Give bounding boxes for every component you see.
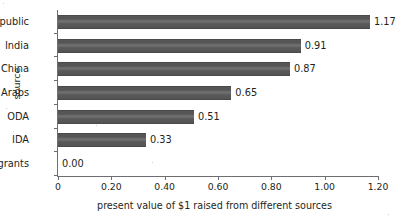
bar-value-label-ida: 0.33 <box>150 133 172 147</box>
x-axis-tick-label-0.80: 0.80 <box>251 181 291 192</box>
bar-oda[interactable] <box>58 110 194 124</box>
x-axis-tick <box>325 176 326 180</box>
scan-speck <box>6 108 7 109</box>
y-axis-tick-label-oda: ODA <box>0 110 29 124</box>
bar-arabs[interactable] <box>58 86 231 100</box>
chart-row: ODA0.51 <box>58 105 378 129</box>
scan-speck <box>388 214 389 215</box>
x-axis-tick <box>111 176 112 180</box>
y-axis-tick-label-india: India <box>0 39 29 53</box>
chart-row: India0.91 <box>58 34 378 58</box>
bar-china[interactable] <box>58 62 290 76</box>
bar-value-label-oda: 0.51 <box>198 110 220 124</box>
bar-india[interactable] <box>58 39 301 53</box>
chart-row: Arabs0.65 <box>58 81 378 105</box>
bar-ida[interactable] <box>58 133 146 147</box>
chart-row: grants0.00 <box>58 152 378 176</box>
bar-value-label-arabs: 0.65 <box>235 86 257 100</box>
x-axis-tick-label-0.60: 0.60 <box>198 181 238 192</box>
chart-row: China0.87 <box>58 57 378 81</box>
bar-chart: source public1.17India0.91China0.87Arabs… <box>0 0 403 223</box>
scan-speck <box>3 3 4 4</box>
y-axis-tick-label-china: China <box>0 62 29 76</box>
x-axis-tick <box>271 176 272 180</box>
x-axis-title: present value of $1 raised from differen… <box>0 200 403 211</box>
x-axis-tick-label-1.20: 1.20 <box>358 181 398 192</box>
bar-value-label-india: 0.91 <box>305 39 327 53</box>
x-axis-tick-label-1.00: 1.00 <box>305 181 345 192</box>
y-axis-tick-label-public: public <box>0 15 29 29</box>
x-axis-tick <box>165 176 166 180</box>
y-axis-tick-label-arabs: Arabs <box>0 86 29 100</box>
bar-public[interactable] <box>58 15 370 29</box>
x-axis-tick-label-0: 0 <box>38 181 78 192</box>
bar-value-label-public: 1.17 <box>374 15 396 29</box>
scan-speck <box>96 125 97 126</box>
scan-speck <box>152 162 153 163</box>
x-axis-tick-label-0.40: 0.40 <box>145 181 185 192</box>
chart-row: public1.17 <box>58 10 378 34</box>
bar-value-label-china: 0.87 <box>294 62 316 76</box>
bar-value-label-grants: 0.00 <box>62 157 84 171</box>
plot-area: public1.17India0.91China0.87Arabs0.65ODA… <box>58 10 378 176</box>
chart-row: IDA0.33 <box>58 129 378 153</box>
y-axis-tick-label-grants: grants <box>0 157 29 171</box>
scan-speck <box>13 131 14 132</box>
x-axis-tick <box>218 176 219 180</box>
x-axis-tick-label-0.20: 0.20 <box>91 181 131 192</box>
x-axis-tick <box>58 176 59 180</box>
y-axis-tick-label-ida: IDA <box>0 133 29 147</box>
x-axis-tick <box>378 176 379 180</box>
